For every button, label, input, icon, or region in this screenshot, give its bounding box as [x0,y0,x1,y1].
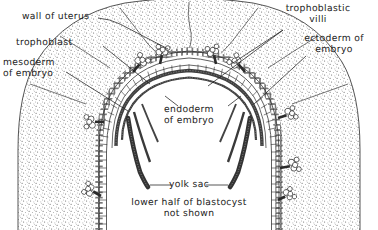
diagram-page: wall of uterus trophoblast mesoderm of e… [0,0,378,230]
label-yolk-sac: yolk sac [168,180,210,191]
label-mesoderm-of-embryo: mesoderm of embryo [3,58,55,79]
label-endoderm-of-embryo: endoderm of embryo [152,105,226,126]
label-ectoderm-of-embryo: ectoderm of embryo [292,34,376,55]
label-trophoblastic-villi: trophoblastic villi [272,4,364,25]
label-trophoblast: trophoblast [16,38,72,49]
caption-lower-half-not-shown: lower half of blastocyst not shown [113,198,265,219]
label-wall-of-uterus: wall of uterus [22,12,89,23]
